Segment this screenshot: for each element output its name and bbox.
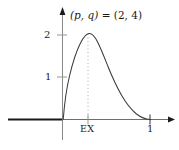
x-axis-tick-label-expected-value: EX [80, 124, 94, 134]
x-axis-arrow-icon [168, 117, 175, 123]
peak-parameter-annotation: (p, q) = (2, 4) [70, 10, 142, 21]
annotation-values: (2, 4) [114, 9, 142, 21]
y-axis-arrow-icon [60, 7, 66, 15]
annotation-equals: = [98, 9, 113, 21]
x-axis-tick-label-1: 1 [147, 124, 153, 134]
annotation-params: (p, q) [70, 9, 98, 21]
density-curve [63, 34, 150, 120]
y-axis-tick-label-2: 2 [44, 30, 50, 40]
beta-density-figure: 2 1 1 EX (p, q) = (2, 4) [0, 0, 179, 150]
y-axis-tick-label-1: 1 [45, 72, 51, 82]
